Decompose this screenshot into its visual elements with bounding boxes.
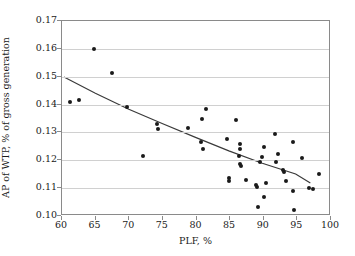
data-point — [200, 117, 204, 121]
gridline — [62, 105, 329, 106]
x-tick-label: 65 — [82, 220, 108, 230]
x-tick-mark — [128, 216, 129, 220]
gridline — [62, 77, 329, 78]
x-tick-label: 95 — [283, 220, 309, 230]
x-axis-title: PLF, % — [61, 235, 330, 246]
gridline — [62, 49, 329, 50]
data-point — [291, 140, 295, 144]
x-tick-mark — [263, 216, 264, 220]
x-tick-mark — [296, 216, 297, 220]
data-point — [199, 140, 203, 144]
y-tick-label: 0.15 — [27, 71, 57, 81]
x-tick-mark — [162, 216, 163, 220]
data-point — [225, 137, 229, 141]
plot-area — [61, 20, 330, 215]
gridline — [62, 132, 329, 133]
gridline — [62, 160, 329, 161]
x-tick-label: 60 — [48, 220, 74, 230]
data-point — [262, 145, 266, 149]
data-point — [260, 155, 264, 159]
data-point — [237, 154, 241, 158]
data-point — [284, 179, 288, 183]
data-point — [68, 100, 72, 104]
x-tick-mark — [229, 216, 230, 220]
y-tick-label: 0.14 — [27, 99, 57, 109]
data-point — [258, 160, 262, 164]
x-tick-mark — [61, 216, 62, 220]
y-axis-title: AP of WTP, % of gross generation — [0, 20, 14, 215]
data-point — [244, 178, 248, 182]
y-tick-label: 0.16 — [27, 43, 57, 53]
x-tick-mark — [196, 216, 197, 220]
y-tick-label: 0.13 — [27, 126, 57, 136]
data-point — [317, 172, 321, 176]
data-point — [292, 208, 296, 212]
x-tick-label: 100 — [317, 220, 343, 230]
x-tick-label: 90 — [250, 220, 276, 230]
y-tick-label: 0.12 — [27, 154, 57, 164]
data-point — [186, 126, 190, 130]
x-axis-ticks: 6065707580859095100 — [61, 216, 330, 232]
data-point — [110, 71, 114, 75]
data-point — [238, 142, 242, 146]
x-tick-label: 80 — [183, 220, 209, 230]
x-tick-mark — [330, 216, 331, 220]
data-point — [255, 185, 259, 189]
trendline — [62, 21, 329, 214]
x-tick-label: 85 — [216, 220, 242, 230]
scatter-chart-figure: AP of WTP, % of gross generation 0.100.1… — [0, 0, 355, 256]
y-axis-ticks: 0.100.110.120.130.140.150.160.17 — [24, 20, 57, 215]
x-tick-label: 70 — [115, 220, 141, 230]
x-tick-mark — [95, 216, 96, 220]
y-tick-label: 0.11 — [27, 182, 57, 192]
y-tick-label: 0.17 — [27, 15, 57, 25]
data-point — [156, 127, 160, 131]
y-tick-label: 0.10 — [27, 210, 57, 220]
x-tick-label: 75 — [149, 220, 175, 230]
data-point — [273, 132, 277, 136]
gridline — [62, 188, 329, 189]
